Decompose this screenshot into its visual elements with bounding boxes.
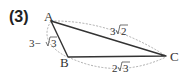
triangle-diagram: (3) A B C 3 2 2 3 3− 3 (0, 0, 192, 75)
svg-text:3−: 3− (29, 37, 41, 49)
problem-number: (3) (9, 8, 29, 25)
edge-ac-label: 3 2 (110, 25, 128, 37)
svg-text:3: 3 (51, 37, 57, 49)
svg-text:3: 3 (123, 62, 129, 74)
edge-ab-label: 3− 3 (29, 37, 57, 49)
vertex-b-label: B (60, 55, 69, 70)
vertex-c-label: C (170, 49, 179, 64)
triangle-abc (51, 21, 166, 57)
svg-text:3: 3 (110, 25, 116, 37)
svg-text:2: 2 (112, 62, 118, 74)
vertex-a-label: A (44, 9, 54, 24)
dashed-arc-ab (47, 21, 67, 57)
edge-bc-label: 2 3 (112, 62, 130, 74)
svg-text:2: 2 (121, 25, 127, 37)
